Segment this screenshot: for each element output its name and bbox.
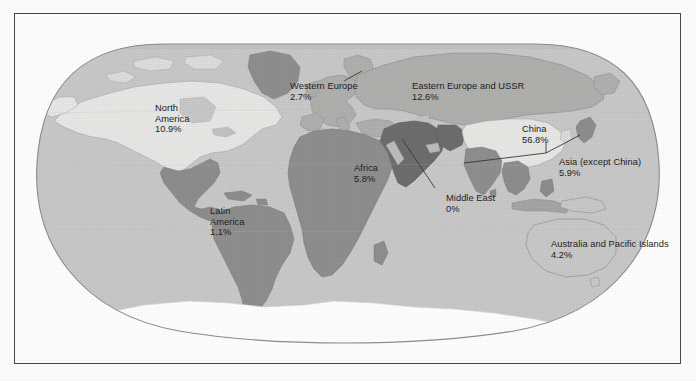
label-china: China 56.8% [522,124,549,145]
label-eastern-europe-ussr-value: 12.6% [412,92,524,103]
label-africa-name: Africa [354,163,378,173]
label-north-america-name2: America [155,114,189,124]
label-africa-value: 5.8% [354,174,378,185]
label-australia-pacific-value: 4.2% [551,250,669,261]
label-australia-pacific-name: Australia and Pacific Islands [551,239,669,249]
label-australia-pacific: Australia and Pacific Islands 4.2% [551,239,669,260]
label-asia-except-china-name: Asia (except China) [559,157,641,167]
label-eastern-europe-ussr-name: Eastern Europe and USSR [412,81,524,91]
label-africa: Africa 5.8% [354,163,378,184]
globe-body [14,13,681,364]
label-eastern-europe-ussr: Eastern Europe and USSR 12.6% [412,81,524,102]
label-latin-america-name: Latin [210,206,230,216]
world-map-graphic [14,13,681,364]
label-north-america-name: North [155,103,178,113]
label-china-value: 56.8% [522,135,549,146]
label-latin-america: Latin America 1.1% [210,206,244,238]
label-asia-except-china-value: 5.9% [559,168,641,179]
label-middle-east-name: Middle East [446,193,495,203]
label-latin-america-name2: America [210,217,244,227]
label-asia-except-china: Asia (except China) 5.9% [559,157,641,178]
label-western-europe-name: Western Europe [290,81,358,91]
label-middle-east-value: 0% [446,204,495,215]
label-middle-east: Middle East 0% [446,193,495,214]
label-china-name: China [522,124,547,134]
label-latin-america-value: 1.1% [210,227,244,238]
globe-top-shade [14,41,681,49]
label-north-america: North America 10.9% [155,103,189,135]
world-map-figure: North America 10.9% Latin America 1.1% W… [0,0,696,381]
map-area: North America 10.9% Latin America 1.1% W… [14,13,681,364]
label-western-europe-value: 2.7% [290,92,358,103]
label-western-europe: Western Europe 2.7% [290,81,358,102]
label-north-america-value: 10.9% [155,124,189,135]
